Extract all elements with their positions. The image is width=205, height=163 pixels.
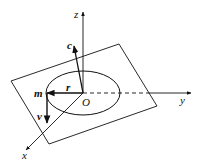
origin-label: O <box>82 96 90 108</box>
orbital-plane <box>11 44 157 144</box>
x-axis-label: x <box>21 149 27 161</box>
c-vector <box>74 46 83 93</box>
mass-label: m <box>34 87 43 99</box>
z-axis-label: z <box>73 8 79 20</box>
orbital-diagram: z y x O c r m v <box>0 0 205 163</box>
y-axis-label: y <box>179 94 185 106</box>
c-vector-label: c <box>67 39 72 51</box>
r-vector-label: r <box>66 81 71 93</box>
v-vector-label: v <box>37 110 42 122</box>
x-axis <box>26 93 83 150</box>
